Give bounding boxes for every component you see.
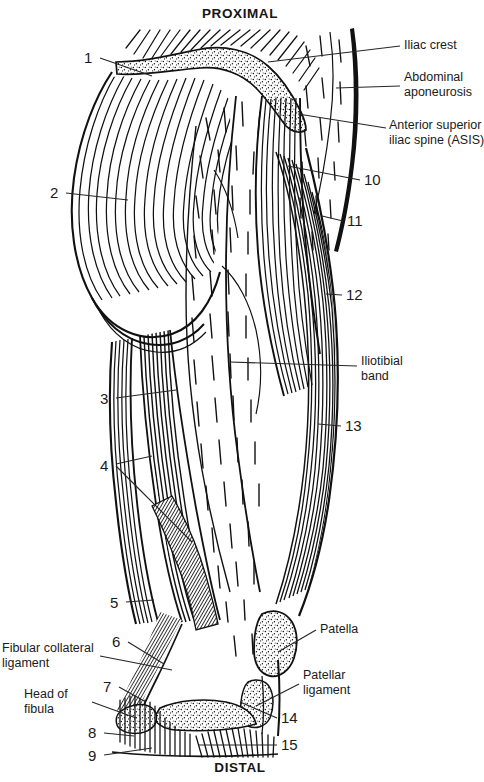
label-patella-line-1: Patella xyxy=(320,622,358,637)
label-abdominal-aponeurosis-line-2: aponeurosis xyxy=(404,85,472,100)
label-number-13: 13 xyxy=(345,418,362,433)
label-patellar-ligament-line-2: ligament xyxy=(303,683,350,698)
label-iliac-crest: Iliac crest xyxy=(404,38,457,53)
posterior-intermuscular-shadow xyxy=(152,496,218,630)
label-number-14: 14 xyxy=(281,710,298,725)
label-head-of-fibula: Head offibula xyxy=(24,687,68,716)
label-number-2: 2 xyxy=(50,185,58,200)
label-iliac-crest-line-1: Iliac crest xyxy=(404,38,457,53)
distal-orientation-label: DISTAL xyxy=(0,760,480,775)
label-patella: Patella xyxy=(320,622,358,637)
biceps-femoris-long-head xyxy=(140,330,220,622)
label-anterior-superior-iliac-spine-line-1: Anterior superior xyxy=(389,118,484,133)
label-number-10: 10 xyxy=(364,172,381,187)
label-number-3: 3 xyxy=(100,391,108,406)
label-number-12: 12 xyxy=(346,287,363,302)
gluteus-medius xyxy=(72,72,247,337)
label-fibular-collateral-ligament-line-1: Fibular collateral xyxy=(2,641,94,656)
leader-11 xyxy=(322,216,343,221)
tensor-fasciae-latae xyxy=(256,96,320,396)
leader-12 xyxy=(326,294,342,295)
fibular-collateral-ligament-cord xyxy=(116,612,182,716)
label-number-6: 6 xyxy=(112,634,120,649)
patella-bone xyxy=(254,611,297,676)
label-head-of-fibula-line-2: fibula xyxy=(24,702,68,717)
label-number-8: 8 xyxy=(88,725,96,740)
label-number-7: 7 xyxy=(103,679,111,694)
label-number-11: 11 xyxy=(347,213,363,228)
label-number-15: 15 xyxy=(281,737,298,752)
label-anterior-superior-iliac-spine-line-2: iliac spine (ASIS) xyxy=(389,133,484,148)
label-iliotibial-band-line-2: band xyxy=(361,369,403,384)
label-patellar-ligament: Patellarligament xyxy=(303,668,350,697)
label-head-of-fibula-line-1: Head of xyxy=(24,687,68,702)
leader-abdominal-aponeurosis xyxy=(336,86,400,88)
label-anterior-superior-iliac-spine: Anterior superioriliac spine (ASIS) xyxy=(389,118,484,147)
proximal-orientation-label: PROXIMAL xyxy=(0,6,480,21)
label-fibular-collateral-ligament-line-2: ligament xyxy=(2,656,94,671)
label-abdominal-aponeurosis: Abdominalaponeurosis xyxy=(404,70,472,99)
label-abdominal-aponeurosis-line-1: Abdominal xyxy=(404,70,472,85)
label-number-4: 4 xyxy=(100,458,108,473)
label-number-9: 9 xyxy=(88,748,96,763)
leader-asis xyxy=(298,114,386,128)
label-iliotibial-band: Iliotibialband xyxy=(361,354,403,383)
label-number-1: 1 xyxy=(84,50,92,65)
label-fibular-collateral-ligament: Fibular collateralligament xyxy=(2,641,94,670)
label-number-5: 5 xyxy=(110,595,118,610)
label-patellar-ligament-line-1: Patellar xyxy=(303,668,350,683)
label-iliotibial-band-line-1: Iliotibial xyxy=(361,354,403,369)
